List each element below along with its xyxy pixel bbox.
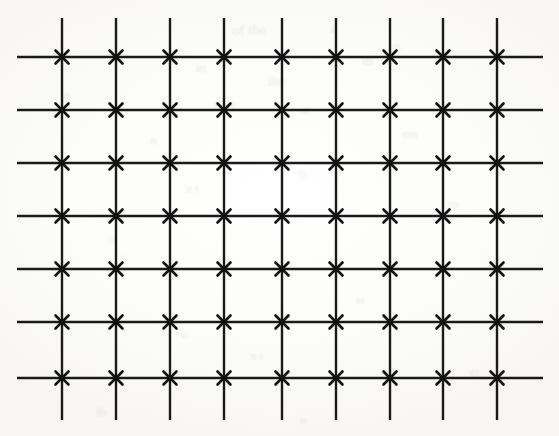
intersection-cross-mark-group	[56, 51, 504, 385]
figure-container: of theainthemof aurnessa troeisn tertho	[0, 0, 559, 436]
grid-diagram	[0, 0, 559, 436]
